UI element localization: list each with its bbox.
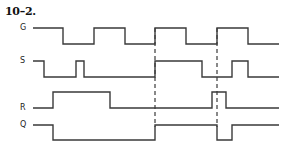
waveforms [33, 28, 279, 140]
waveform-g [33, 28, 279, 44]
timing-diagram [0, 0, 283, 151]
waveform-s [33, 61, 279, 77]
waveform-r [33, 92, 279, 108]
waveform-q [33, 125, 279, 140]
